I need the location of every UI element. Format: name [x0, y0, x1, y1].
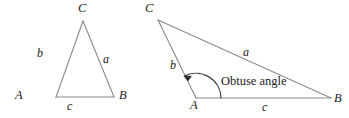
- obtuse-side-label-c: c: [262, 101, 267, 113]
- arrowhead-icon: [184, 76, 191, 81]
- obtuse-vertex-label-b: B: [334, 92, 342, 105]
- obtuse-side-b: [158, 20, 196, 98]
- acute-vertex-label-c: C: [78, 2, 86, 15]
- acute-side-a: [83, 21, 114, 97]
- geometry-figure: A B C b a c A B C b a c Obtuse angle: [0, 0, 349, 118]
- obtuse-angle-annotation: Obtuse angle: [221, 75, 287, 88]
- acute-vertex-label-a: A: [15, 89, 23, 102]
- acute-side-label-a: a: [103, 53, 109, 65]
- obtuse-vertex-label-a: A: [190, 99, 198, 112]
- obtuse-side-label-b: b: [170, 59, 176, 71]
- acute-side-label-c: c: [67, 100, 72, 112]
- obtuse-side-label-a: a: [243, 46, 249, 58]
- acute-vertex-label-b: B: [119, 89, 127, 102]
- acute-side-label-b: b: [37, 47, 43, 59]
- acute-side-b: [56, 21, 83, 97]
- obtuse-vertex-label-c: C: [145, 2, 153, 15]
